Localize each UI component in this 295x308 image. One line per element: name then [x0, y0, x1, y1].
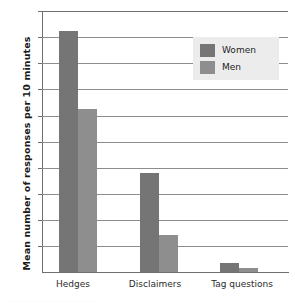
bar-hedges-women [59, 31, 78, 272]
footer-divider [6, 301, 98, 302]
bar-disclaimers-women [140, 173, 159, 272]
x-axis-line [42, 272, 289, 273]
bar-hedges-men [78, 109, 97, 272]
bar-tagquestions-men [239, 268, 258, 272]
y-tick-mark-4 [38, 220, 42, 221]
bar-chart-figure: Mean number of responses per 10 minutes … [0, 0, 295, 308]
y-tick-mark-14 [38, 89, 42, 90]
y-axis-title: Mean number of responses per 10 minutes [21, 24, 32, 284]
legend-swatch-women-icon [200, 44, 215, 57]
x-tick-label-disclaimers: Disclaimers [120, 279, 190, 289]
y-tick-mark-12 [38, 116, 42, 117]
y-tick-mark-16 [38, 63, 42, 64]
y-tick-mark-18 [38, 37, 42, 38]
y-tick-mark-2 [38, 246, 42, 247]
chart-legend: Women Men [193, 37, 279, 80]
legend-swatch-men-icon [200, 61, 215, 74]
gridline-14 [42, 89, 288, 90]
bar-disclaimers-men [159, 235, 178, 272]
legend-label-women: Women [222, 44, 256, 57]
y-tick-mark-20 [38, 11, 42, 12]
gridline-20 [42, 11, 288, 12]
x-tick-label-hedges: Hedges [40, 279, 106, 289]
bar-tagquestions-women [220, 263, 239, 272]
y-tick-mark-6 [38, 194, 42, 195]
y-tick-mark-10 [38, 142, 42, 143]
legend-label-men: Men [222, 61, 241, 74]
x-tick-label-tag-questions: Tag questions [200, 279, 284, 289]
y-tick-mark-8 [38, 168, 42, 169]
